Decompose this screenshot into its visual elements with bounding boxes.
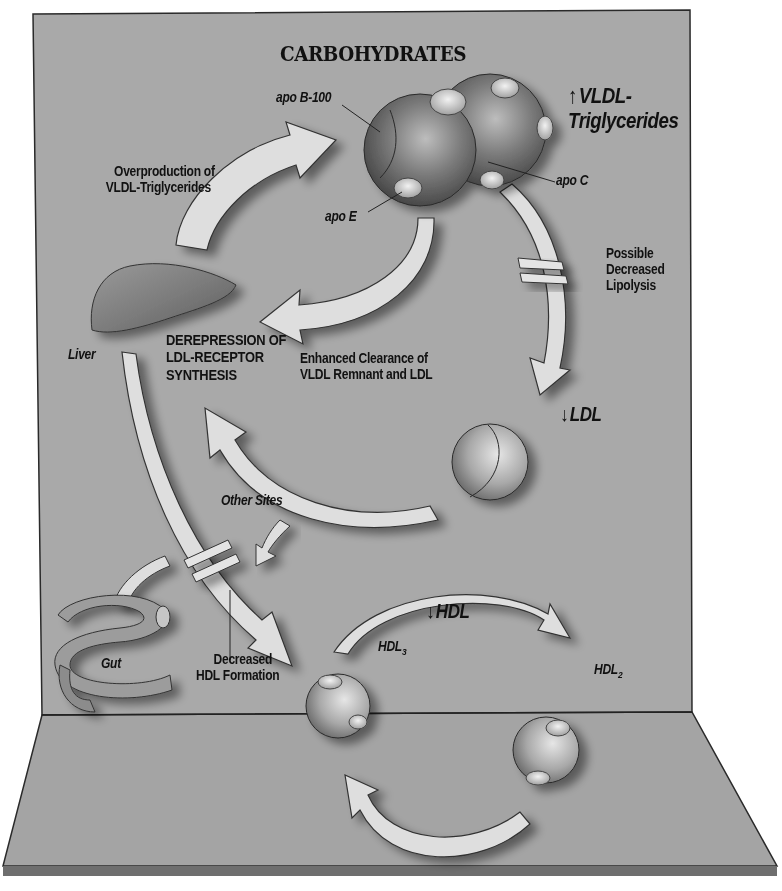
up-arrow-icon: ↑ bbox=[568, 83, 577, 108]
down-arrow-icon: ↓ bbox=[560, 403, 568, 425]
floor-edge bbox=[3, 866, 777, 876]
label-hdl: ↓HDL bbox=[426, 600, 469, 623]
label-enhanced-clearance: Enhanced Clearance of VLDL Remnant and L… bbox=[300, 350, 432, 382]
label-possible-decreased-lipolysis: Possible Decreased Lipolysis bbox=[606, 245, 665, 293]
label-gut: Gut bbox=[101, 655, 121, 671]
label-overproduction: Overproduction of VLDL-Triglycerides bbox=[102, 163, 215, 195]
hdl3-particle bbox=[306, 674, 370, 738]
down-arrow-icon: ↓ bbox=[426, 600, 434, 622]
label-ldl: ↓LDL bbox=[560, 403, 602, 426]
label-hdl3: HDL3 bbox=[378, 638, 406, 657]
label-derepression: DEREPRESSION OF LDL-RECEPTOR SYNTHESIS bbox=[166, 331, 286, 383]
title-carbohydrates: CARBOHYDRATES bbox=[280, 43, 466, 66]
label-apo-c: apo C bbox=[556, 172, 588, 188]
label-other-sites: Other Sites bbox=[221, 492, 282, 508]
label-decreased-hdl-formation: Decreased HDL Formation bbox=[196, 651, 279, 683]
label-apo-b100: apo B-100 bbox=[276, 89, 331, 105]
label-liver: Liver bbox=[68, 346, 95, 362]
label-apo-e: apo E bbox=[325, 208, 356, 224]
label-hdl2: HDL2 bbox=[594, 661, 622, 680]
diagram-scene bbox=[0, 0, 782, 891]
label-vldl-triglycerides: ↑VLDL- Triglycerides bbox=[568, 83, 679, 134]
ldl-particle bbox=[452, 424, 528, 500]
